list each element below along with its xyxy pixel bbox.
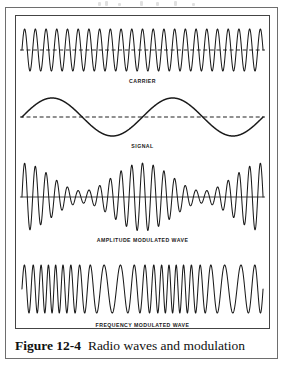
wave-trace-signal (16, 92, 269, 142)
wave-trace-carrier (16, 22, 269, 78)
wave-block-carrier (16, 22, 269, 78)
wave-block-amplitude-modulated-wave (16, 158, 269, 236)
wave-label-amplitude-modulated-wave: AMPLITUDE MODULATED WAVE (16, 237, 269, 244)
wave-block-frequency-modulated-wave (16, 256, 269, 322)
wave-label-carrier: CARRIER (16, 78, 269, 85)
wave-trace-frequency-modulated-wave (16, 256, 269, 322)
caption-text: Figure 12-4 Radio waves and modulation (6, 338, 245, 354)
caption-number: Figure 12-4 (15, 338, 88, 353)
wave-block-signal (16, 92, 269, 142)
figure-caption: Figure 12-4 Radio waves and modulation (6, 331, 277, 360)
waveform-path-frequency-modulated-wave (22, 265, 263, 313)
waveform-artwork-panel: CARRIERSIGNALAMPLITUDE MODULATED WAVEFRE… (15, 15, 270, 329)
wave-label-frequency-modulated-wave: FREQUENCY MODULATED WAVE (16, 322, 269, 329)
figure-frame: CARRIERSIGNALAMPLITUDE MODULATED WAVEFRE… (5, 7, 278, 359)
cropped-text-artifact (96, 0, 206, 6)
wave-trace-amplitude-modulated-wave (16, 158, 269, 236)
caption-title: Radio waves and modulation (88, 338, 245, 353)
wave-label-signal: SIGNAL (16, 143, 269, 150)
